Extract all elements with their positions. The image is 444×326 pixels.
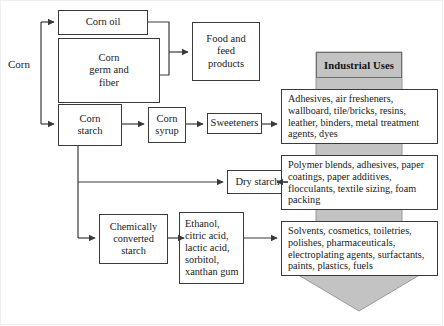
line-corn-oil-to-join bbox=[148, 22, 169, 52]
diagram-canvas: Corn Industrial Uses Corn oil Corngerm a… bbox=[0, 0, 444, 326]
connector-lines bbox=[0, 0, 444, 326]
line-germ-to-join bbox=[160, 52, 169, 75]
